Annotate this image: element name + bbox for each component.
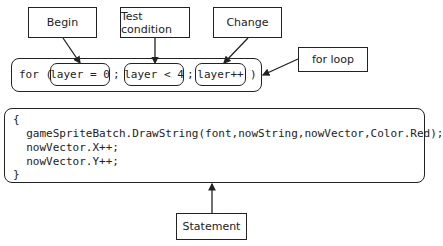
- iterator-pill: layer++: [195, 63, 246, 86]
- statement-line: nowVector.Y++;: [13, 155, 119, 168]
- initializer-code: layer = 0: [50, 68, 110, 81]
- for-keyword: for (: [19, 68, 52, 81]
- statement-line: nowVector.X++;: [13, 141, 119, 154]
- statement-line: {: [13, 113, 20, 126]
- begin-label-box: Begin: [28, 7, 97, 38]
- begin-label: Begin: [47, 16, 78, 29]
- separator-1: ;: [113, 68, 120, 81]
- for-loop-arrow: [263, 59, 298, 75]
- for-loop-label: for loop: [312, 53, 354, 66]
- change-label: Change: [226, 16, 268, 29]
- statement-block-box: { gameSpriteBatch.DrawString(font,nowStr…: [4, 108, 425, 183]
- statement-label-box: Statement: [176, 213, 247, 240]
- condition-pill: layer < 4: [124, 63, 184, 86]
- statement-line: }: [13, 168, 20, 181]
- condition-code: layer < 4: [124, 68, 184, 81]
- statement-label: Statement: [183, 220, 241, 233]
- for-close-paren: ): [250, 68, 257, 81]
- change-label-box: Change: [213, 7, 282, 38]
- for-loop-label-box: for loop: [298, 47, 368, 72]
- test-condition-label-box: Test condition: [120, 7, 190, 38]
- initializer-pill: layer = 0: [50, 63, 110, 86]
- separator-2: ;: [187, 68, 194, 81]
- statement-line: gameSpriteBatch.DrawString(font,nowStrin…: [13, 127, 443, 140]
- iterator-code: layer++: [197, 68, 243, 81]
- test-condition-label: Test condition: [121, 10, 189, 36]
